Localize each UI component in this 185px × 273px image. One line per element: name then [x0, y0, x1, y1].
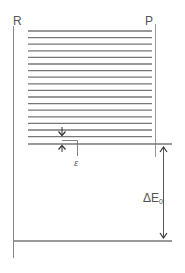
- epsilon-label: ε: [74, 156, 79, 168]
- reactant-label: R: [13, 14, 22, 28]
- energy-gap-arrow: [160, 147, 167, 238]
- epsilon-spacing-marker: [59, 127, 78, 156]
- energy-level-diagram: R P ε ΔE0: [0, 0, 185, 273]
- product-energy-levels: [28, 31, 152, 137]
- product-label: P: [145, 14, 153, 28]
- energy-gap-label: ΔE0: [143, 191, 163, 205]
